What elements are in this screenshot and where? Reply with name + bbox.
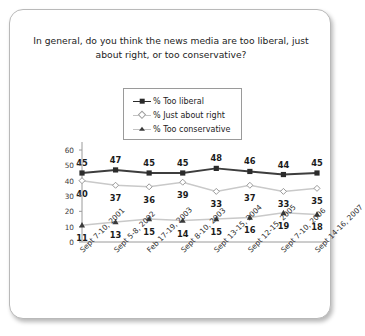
chart-plot-area: 0102030405060454745454846444540373639333… <box>10 10 353 336</box>
data-point-marker <box>147 170 152 175</box>
chart-card: In general, do you think the news media … <box>9 9 331 319</box>
data-point-marker <box>281 172 286 177</box>
data-point-marker <box>113 182 119 188</box>
data-point-marker <box>314 185 320 191</box>
data-point-marker <box>180 179 186 185</box>
data-point-marker <box>79 178 85 184</box>
data-point-marker <box>214 166 219 171</box>
data-point-marker <box>213 188 219 194</box>
data-point-marker <box>247 169 252 174</box>
data-point-marker <box>146 184 152 190</box>
data-point-marker <box>247 182 253 188</box>
data-point-marker <box>79 170 84 175</box>
data-point-marker <box>113 167 118 172</box>
data-point-marker <box>180 170 185 175</box>
data-point-marker <box>280 188 286 194</box>
data-point-marker <box>314 170 319 175</box>
chart-svg <box>10 10 353 336</box>
